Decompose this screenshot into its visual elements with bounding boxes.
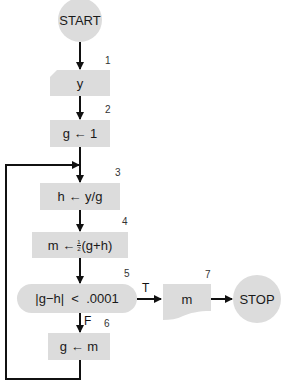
step-number-4: 4 [122, 216, 128, 227]
output-m-label: m [163, 286, 211, 312]
step-number-6: 6 [104, 318, 110, 329]
step-number-2: 2 [105, 104, 111, 115]
step-number-5: 5 [124, 268, 130, 279]
false-branch-label: F [84, 314, 91, 328]
step-number-1: 1 [105, 55, 111, 66]
process-h-label: h ← y/g [40, 183, 120, 210]
one-half-fraction: 1 2 [77, 239, 80, 252]
fraction-denominator: 2 [77, 245, 80, 252]
input-y-label: y [50, 70, 110, 96]
process-g-init-label: g ← 1 [50, 120, 110, 147]
process-m-suffix: (g+h) [82, 238, 113, 253]
process-m-prefix: m ← [48, 238, 75, 253]
true-branch-label: T [142, 281, 149, 295]
step-number-7: 7 [205, 269, 211, 280]
process-m-label: m ← 1 2 (g+h) [32, 232, 128, 258]
start-label: START [58, 8, 102, 32]
stop-label: STOP [233, 287, 281, 311]
decision-label: |g−h| < .0001 [17, 284, 137, 313]
step-number-3: 3 [115, 167, 121, 178]
process-g-update-label: g ← m [48, 333, 110, 360]
